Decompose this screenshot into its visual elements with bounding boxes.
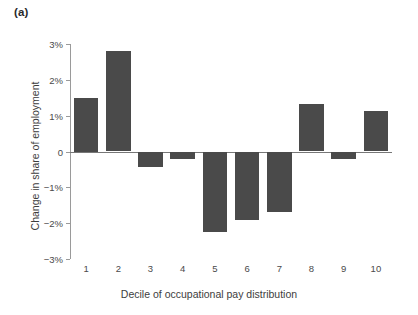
figure-panel-a: (a) Change in share of employment 3%2%1%… — [0, 0, 418, 315]
x-tick-label: 4 — [167, 263, 199, 274]
x-tick-label: 7 — [263, 263, 295, 274]
y-tick-label: 0 — [58, 146, 63, 157]
bar-group: 5 — [199, 44, 231, 259]
y-tick-label: 3% — [49, 39, 63, 50]
x-tick-label: 5 — [199, 263, 231, 274]
x-tick-label: 10 — [360, 263, 392, 274]
bar — [299, 104, 323, 151]
bar-group: 3 — [134, 44, 166, 259]
y-axis-title: Change in share of employment — [29, 41, 41, 271]
bar-group: 4 — [167, 44, 199, 259]
x-axis-title: Decile of occupational pay distribution — [0, 288, 418, 300]
bar-group: 6 — [231, 44, 263, 259]
x-tick-label: 1 — [70, 263, 102, 274]
bar-group: 1 — [70, 44, 102, 259]
bar — [331, 152, 355, 160]
x-tick-label: 6 — [231, 263, 263, 274]
bar — [138, 152, 162, 167]
x-tick-label: 8 — [295, 263, 327, 274]
bar — [364, 111, 388, 151]
bar-group: 7 — [263, 44, 295, 259]
x-tick-label: 2 — [102, 263, 134, 274]
bar-series: 12345678910 — [70, 44, 392, 259]
bar — [267, 152, 291, 213]
bar-group: 9 — [328, 44, 360, 259]
bar — [74, 98, 98, 152]
bar — [235, 152, 259, 220]
y-tick-label: −3% — [44, 254, 63, 265]
plot-area: 3%2%1%0−1%−2%−3% 12345678910 — [70, 44, 392, 259]
bar — [106, 51, 130, 151]
y-tick-label: 1% — [49, 110, 63, 121]
panel-label: (a) — [14, 6, 28, 18]
bar-group: 2 — [102, 44, 134, 259]
bar-group: 10 — [360, 44, 392, 259]
bar — [170, 152, 194, 159]
y-tick-label: −1% — [44, 182, 63, 193]
y-tick-label: −2% — [44, 218, 63, 229]
x-tick-label: 3 — [134, 263, 166, 274]
y-tick-mark — [66, 259, 70, 260]
bar-group: 8 — [295, 44, 327, 259]
bar — [203, 152, 227, 233]
y-tick-label: 2% — [49, 74, 63, 85]
x-tick-label: 9 — [328, 263, 360, 274]
